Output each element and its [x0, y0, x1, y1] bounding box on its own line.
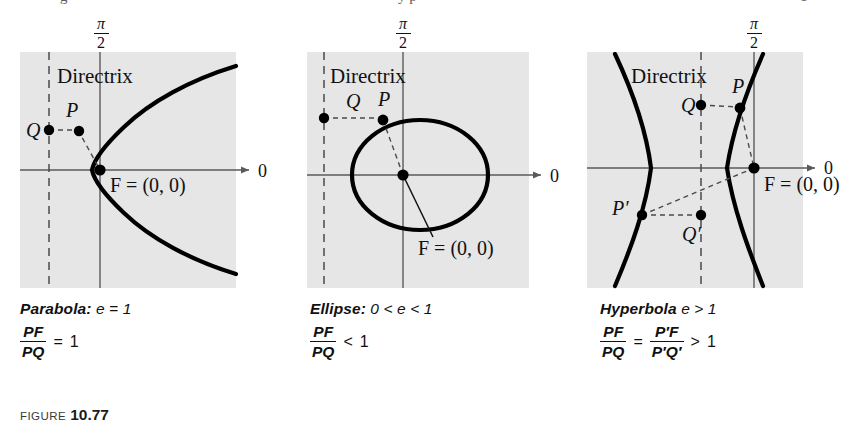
caption-ellipse-title: Ellipse: 0 < e < 1	[310, 300, 432, 318]
ratio-numerator: PF	[311, 323, 335, 341]
hyperbola-plot: Directrix Q P P′ Q′ F = (0, 0) 0	[580, 52, 865, 292]
caption-hyperbola-eccentricity: e > 1	[681, 300, 716, 317]
caption-hyperbola-title: Hyperbola e > 1	[600, 300, 717, 318]
pi-over-two-label-ellipse: π 2	[386, 16, 420, 51]
ratio-numerator: PF	[601, 323, 625, 341]
pi-over-two-label-hyperbola: π 2	[737, 16, 771, 51]
caption-parabola-ratio: PF PQ = 1	[20, 323, 131, 361]
point-q-dot	[319, 113, 329, 123]
panel-hyperbola: π 2	[580, 12, 865, 292]
ratio-fraction: PF PQ	[310, 323, 336, 361]
figure-tag-word: FIGURE	[20, 410, 66, 422]
ratio-numerator-prime: P′F	[653, 323, 681, 341]
caption-parabola: Parabola: e = 1 PF PQ = 1	[20, 300, 131, 361]
point-q-dot	[696, 100, 706, 110]
directrix-label: Directrix	[330, 64, 406, 88]
caption-parabola-conic: Parabola:	[20, 300, 92, 317]
caption-ellipse-ratio: PF PQ < 1	[310, 323, 432, 361]
polar-axis-arrowhead	[807, 164, 815, 171]
directrix-label: Directrix	[631, 64, 707, 88]
ratio-denominator: PQ	[20, 342, 46, 360]
polar-axis-label: 0	[824, 158, 833, 178]
figure-tag-number: 10.77	[70, 406, 109, 423]
point-q-prime-dot	[696, 210, 706, 220]
focus-label: F = (0, 0)	[418, 237, 494, 260]
clipped-text-remnant-row: g y p 1	[0, 0, 865, 9]
ratio-numerator: PF	[21, 323, 45, 341]
figure-number-tag: FIGURE10.77	[20, 406, 109, 424]
ratio-fraction-prime: P′F P′Q′	[650, 323, 684, 361]
point-p-label: P	[731, 75, 744, 97]
point-p-dot	[735, 103, 746, 114]
parabola-plot: Directrix Q P F = (0, 0) 0	[0, 52, 290, 292]
caption-ellipse: Ellipse: 0 < e < 1 PF PQ < 1	[310, 300, 432, 361]
ratio-value: 1	[707, 333, 716, 351]
panel-parabola: π 2 Directrix	[0, 12, 290, 292]
focus-label: F = (0, 0)	[110, 174, 186, 197]
clipped-text-right: 1	[800, 0, 808, 5]
clipped-text-left: g	[60, 0, 68, 5]
point-p-dot	[378, 115, 389, 126]
ellipse-plot: Directrix Q P F = (0, 0) 0	[290, 52, 580, 292]
pi-denominator: 2	[737, 34, 771, 51]
point-q-label: Q	[681, 94, 696, 116]
point-q-prime-label: Q′	[682, 223, 701, 245]
ratio-operator: =	[633, 333, 642, 351]
point-f-dot	[397, 169, 408, 180]
caption-parabola-eccentricity: e = 1	[96, 300, 131, 317]
ratio-fraction: PF PQ	[600, 323, 626, 361]
figure-10-77: g y p 1 π 2	[0, 0, 865, 441]
pi-denominator: 2	[84, 34, 118, 51]
pi-numerator: π	[84, 16, 118, 33]
caption-parabola-title: Parabola: e = 1	[20, 300, 131, 318]
point-f-dot	[94, 164, 105, 175]
polar-axis-arrowhead	[533, 171, 541, 178]
point-p-label: P	[65, 99, 78, 121]
point-p-prime-label: P′	[611, 197, 629, 219]
ratio-denominator: PQ	[600, 342, 626, 360]
polar-axis-label: 0	[550, 166, 559, 186]
point-q-dot	[44, 125, 54, 135]
ratio-operator: =	[53, 333, 62, 351]
pi-denominator: 2	[386, 34, 420, 51]
caption-hyperbola-conic: Hyperbola	[600, 300, 677, 317]
panel-ellipse: π 2 Directrix Q P F = (0,	[290, 12, 580, 292]
ratio-value: 1	[70, 333, 79, 351]
caption-ellipse-conic: Ellipse:	[310, 300, 366, 317]
polar-axis-arrowhead	[241, 166, 249, 173]
caption-ellipse-eccentricity: 0 < e < 1	[370, 300, 432, 317]
point-p-label: P	[377, 88, 390, 110]
pi-over-two-label-parabola: π 2	[84, 16, 118, 51]
point-p-dot	[74, 126, 84, 136]
ratio-operator: <	[343, 333, 352, 351]
pi-numerator: π	[386, 16, 420, 33]
caption-hyperbola: Hyperbola e > 1 PF PQ = P′F P′Q′ > 1	[600, 300, 717, 361]
point-q-label: Q	[346, 90, 361, 112]
polar-axis-label: 0	[258, 161, 267, 181]
ratio-denominator-prime: P′Q′	[650, 342, 684, 360]
pi-numerator: π	[737, 16, 771, 33]
ratio-denominator: PQ	[310, 342, 336, 360]
caption-hyperbola-ratio: PF PQ = P′F P′Q′ > 1	[600, 323, 717, 361]
ratio-value: 1	[360, 333, 369, 351]
point-q-label: Q	[26, 119, 41, 141]
point-f-dot	[748, 162, 759, 173]
clipped-text-mid: y p	[398, 0, 417, 5]
point-p-prime-dot	[637, 210, 647, 220]
ratio-fraction: PF PQ	[20, 323, 46, 361]
ratio-operator-2: >	[691, 333, 700, 351]
directrix-label: Directrix	[57, 64, 133, 88]
